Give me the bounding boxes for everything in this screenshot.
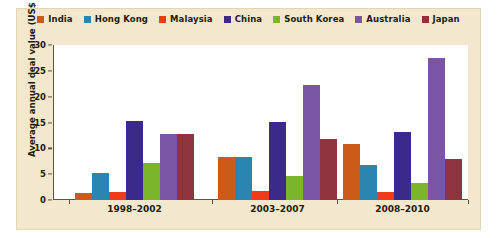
x-axis-tick-mark xyxy=(69,200,70,204)
bar-australia-3[interactable] xyxy=(428,58,445,200)
y-axis-tick-label: 20 xyxy=(34,92,46,101)
y-axis-tick-label: 15 xyxy=(34,118,46,127)
bar-australia-2[interactable] xyxy=(303,85,320,200)
bar-japan-3[interactable] xyxy=(445,159,462,200)
bar-india-2[interactable] xyxy=(218,157,235,200)
legend-item-india[interactable]: India xyxy=(37,14,72,24)
y-axis-tick-label: 0 xyxy=(40,196,46,205)
bar-japan-1[interactable] xyxy=(177,134,194,200)
legend-item-japan[interactable]: Japan xyxy=(422,14,460,24)
legend-item-south-korea[interactable]: South Korea xyxy=(273,14,344,24)
legend-item-label: Hong Kong xyxy=(95,14,148,24)
legend-item-label: India xyxy=(48,14,72,24)
x-axis-tick-mark xyxy=(468,200,469,204)
bar-south-korea-2[interactable] xyxy=(286,176,303,200)
bar-china-3[interactable] xyxy=(394,132,411,200)
y-axis-tick-label: 10 xyxy=(34,144,46,153)
legend-item-label: Australia xyxy=(366,14,410,24)
legend-item-china[interactable]: China xyxy=(224,14,263,24)
bar-malaysia-2[interactable] xyxy=(252,191,269,200)
legend-swatch-icon xyxy=(224,16,231,23)
y-axis-tick-label: 30 xyxy=(34,41,46,50)
legend-swatch-icon xyxy=(355,16,362,23)
legend-swatch-icon xyxy=(159,16,166,23)
bar-hong-kong-2[interactable] xyxy=(235,157,252,200)
bar-hong-kong-1[interactable] xyxy=(92,173,109,200)
y-axis-title: Average annual deal value (US$ B) xyxy=(27,5,37,157)
legend-swatch-icon xyxy=(37,16,44,23)
bar-south-korea-1[interactable] xyxy=(143,163,160,200)
bar-japan-2[interactable] xyxy=(320,139,337,200)
y-axis-tick-mark xyxy=(48,70,52,71)
bar-group-3 xyxy=(343,45,462,200)
y-axis-tick-mark xyxy=(48,148,52,149)
plot-wrapper: 1998–20022003–20072008–2010 xyxy=(53,45,468,200)
y-axis-tick-label: 25 xyxy=(34,67,46,76)
y-axis-tick-mark xyxy=(48,122,52,123)
y-axis-tick-label: 5 xyxy=(40,170,46,179)
legend-item-australia[interactable]: Australia xyxy=(355,14,410,24)
bar-south-korea-3[interactable] xyxy=(411,183,428,200)
chart-legend: IndiaHong KongMalaysiaChinaSouth KoreaAu… xyxy=(16,8,481,30)
x-axis-tick-mark xyxy=(212,200,213,204)
legend-swatch-icon xyxy=(273,16,280,23)
legend-item-label: Malaysia xyxy=(170,14,213,24)
x-axis-tick-mark xyxy=(337,200,338,204)
bar-china-1[interactable] xyxy=(126,121,143,200)
bar-hong-kong-3[interactable] xyxy=(360,165,377,200)
legend-swatch-icon xyxy=(84,16,91,23)
x-axis-category-label: 2003–2007 xyxy=(250,204,305,214)
bar-india-3[interactable] xyxy=(343,144,360,200)
x-axis-category-label: 1998–2002 xyxy=(107,204,162,214)
bar-group-1 xyxy=(75,45,194,200)
legend-item-label: China xyxy=(235,14,263,24)
x-axis-category-label: 2008–2010 xyxy=(375,204,430,214)
bar-malaysia-3[interactable] xyxy=(377,192,394,200)
bar-malaysia-1[interactable] xyxy=(109,192,126,200)
bar-china-2[interactable] xyxy=(269,122,286,200)
chart-figure: IndiaHong KongMalaysiaChinaSouth KoreaAu… xyxy=(0,0,497,238)
y-axis: Average annual deal value (US$ B) 051015… xyxy=(0,40,52,205)
legend-item-hong-kong[interactable]: Hong Kong xyxy=(84,14,148,24)
bar-group-2 xyxy=(218,45,337,200)
bar-australia-1[interactable] xyxy=(160,134,177,200)
legend-item-malaysia[interactable]: Malaysia xyxy=(159,14,213,24)
legend-item-label: Japan xyxy=(433,14,460,24)
y-axis-tick-mark xyxy=(48,174,52,175)
legend-item-label: South Korea xyxy=(284,14,344,24)
y-axis-tick-mark xyxy=(48,44,52,45)
y-axis-tick-mark xyxy=(48,96,52,97)
legend-swatch-icon xyxy=(422,16,429,23)
bar-india-1[interactable] xyxy=(75,193,92,200)
y-axis-tick-mark xyxy=(48,199,52,200)
